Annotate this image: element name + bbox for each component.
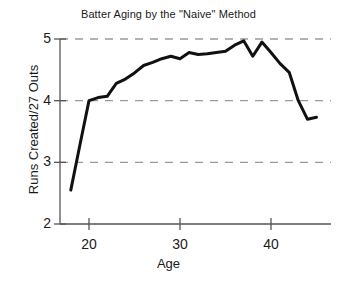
x-tick-label: 40 [256,236,286,252]
x-tick-label: 30 [165,236,195,252]
axes-group [60,39,331,224]
y-tick-label: 2 [29,215,51,231]
x-axis-label: Age [0,256,337,271]
y-axis-label: Runs Created/27 Outs [26,45,41,215]
x-tick-label: 20 [74,236,104,252]
gridlines-group [60,39,331,162]
data-series-line [71,41,317,190]
tick-marks-group [54,39,271,230]
chart-container: Batter Aging by the "Naive" Method 2 3 4… [0,0,337,283]
